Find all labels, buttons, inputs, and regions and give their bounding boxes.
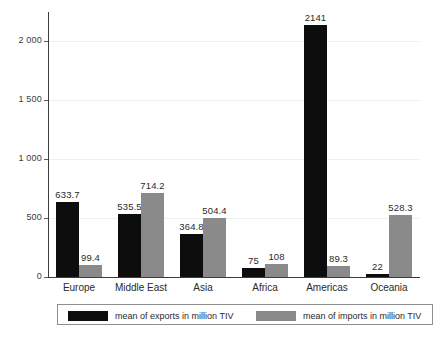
- bar-imports[interactable]: [79, 265, 102, 277]
- y-axis-tick-label: 1 000: [18, 154, 42, 163]
- y-axis-tick-label: 2 000: [18, 36, 42, 45]
- y-axis-tick-label-slot: 2 000: [0, 36, 42, 46]
- bar-exports[interactable]: [118, 214, 141, 277]
- chart-legend: mean of exports in million TIVmean of im…: [57, 304, 433, 325]
- y-axis-tick-label: 0: [37, 272, 42, 281]
- bar-value-label: 633.7: [48, 190, 87, 200]
- y-axis-tick-label: 1 500: [18, 95, 42, 104]
- chart-title: [0, 0, 441, 4]
- bar-group: 535.5714.2: [110, 12, 172, 277]
- bar-group: 364.8504.4: [172, 12, 234, 277]
- legend-entry-imports[interactable]: mean of imports in million TIV: [256, 309, 421, 322]
- bar-exports[interactable]: [304, 25, 327, 277]
- x-axis-line: [48, 277, 420, 278]
- bar-group: 22528.3: [358, 12, 420, 277]
- bar-group: 214189.3: [296, 12, 358, 277]
- y-axis-tick-label-slot: 1 000: [0, 154, 42, 164]
- bar-exports[interactable]: [242, 268, 265, 277]
- bar-imports[interactable]: [141, 193, 164, 277]
- y-axis-tick: [44, 277, 48, 278]
- bar-imports[interactable]: [203, 218, 226, 277]
- bar-value-label: 504.4: [195, 206, 234, 216]
- y-axis-tick-label-slot: 0: [0, 272, 42, 282]
- bar-value-label: 108: [257, 252, 296, 262]
- bar-imports[interactable]: [265, 264, 288, 277]
- bar-exports[interactable]: [56, 202, 79, 277]
- bar-value-label: 528.3: [381, 203, 420, 213]
- bar-group: 633.799.4: [48, 12, 110, 277]
- bar-value-label: 89.3: [319, 254, 358, 264]
- legend-swatch-imports: [256, 311, 296, 321]
- bar-group: 75108: [234, 12, 296, 277]
- bar-exports[interactable]: [180, 234, 203, 277]
- bar-imports[interactable]: [389, 215, 412, 277]
- y-axis-tick-label-slot: 1 500: [0, 95, 42, 105]
- bar-imports[interactable]: [327, 266, 350, 277]
- bar-chart: 2 0001 5001 0005000 633.799.4535.5714.23…: [0, 0, 441, 339]
- legend-entry-exports[interactable]: mean of exports in million TIV: [68, 309, 233, 322]
- bar-value-label: 2141: [296, 13, 335, 23]
- legend-swatch-exports: [68, 311, 108, 321]
- legend-label: mean of imports in million TIV: [303, 311, 421, 321]
- y-axis-tick-label: 500: [26, 213, 42, 222]
- bar-value-label: 99.4: [71, 253, 110, 263]
- category-label-oceania: Oceania: [348, 282, 430, 293]
- legend-label: mean of exports in million TIV: [115, 311, 233, 321]
- y-axis-tick-label-slot: 500: [0, 213, 42, 223]
- bar-value-label: 714.2: [133, 181, 172, 191]
- plot-area: 633.799.4535.5714.2364.8504.475108214189…: [48, 12, 420, 277]
- bar-exports[interactable]: [366, 274, 389, 277]
